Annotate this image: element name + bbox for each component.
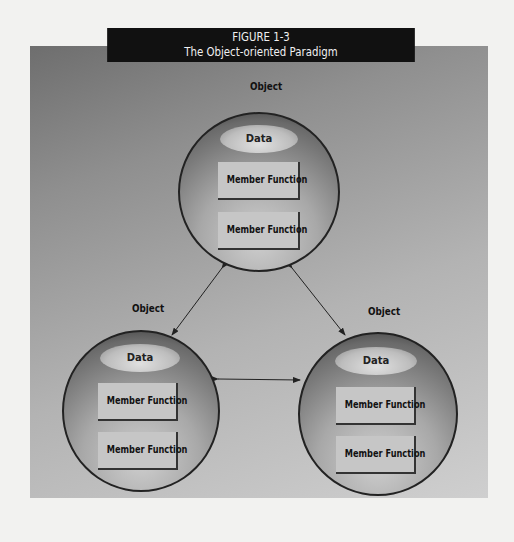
member-function-box: Member Function (98, 432, 178, 470)
object-label-right: Object (368, 305, 400, 318)
data-ellipse-left: Data (100, 344, 180, 372)
arrow-top-to-left (172, 268, 222, 335)
member-function-box: Member Function (336, 387, 416, 425)
data-ellipse-right: Data (335, 347, 417, 375)
arrow-top-to-right (292, 268, 345, 335)
member-function-box: Member Function (98, 383, 178, 421)
object-label-left: Object (132, 302, 164, 315)
member-function-box: Member Function (218, 162, 300, 200)
member-function-box: Member Function (218, 212, 300, 250)
object-label-top: Object (250, 80, 282, 93)
data-ellipse-top: Data (220, 125, 298, 153)
member-function-box: Member Function (336, 436, 416, 474)
arrow-left-to-right (218, 379, 300, 380)
